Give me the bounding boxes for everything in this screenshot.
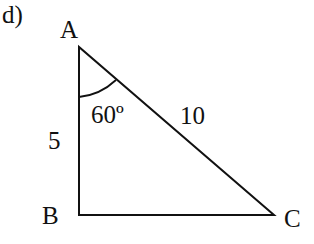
side-ac-length: 10	[180, 103, 205, 128]
vertex-c-label: C	[284, 206, 301, 231]
problem-label: d)	[2, 2, 23, 27]
triangle-abc	[79, 47, 274, 215]
angle-arc-a	[79, 80, 116, 97]
side-ab-length: 5	[48, 128, 61, 153]
angle-a-label: 60º	[91, 102, 124, 127]
vertex-b-label: B	[42, 203, 59, 228]
vertex-a-label: A	[60, 17, 78, 42]
